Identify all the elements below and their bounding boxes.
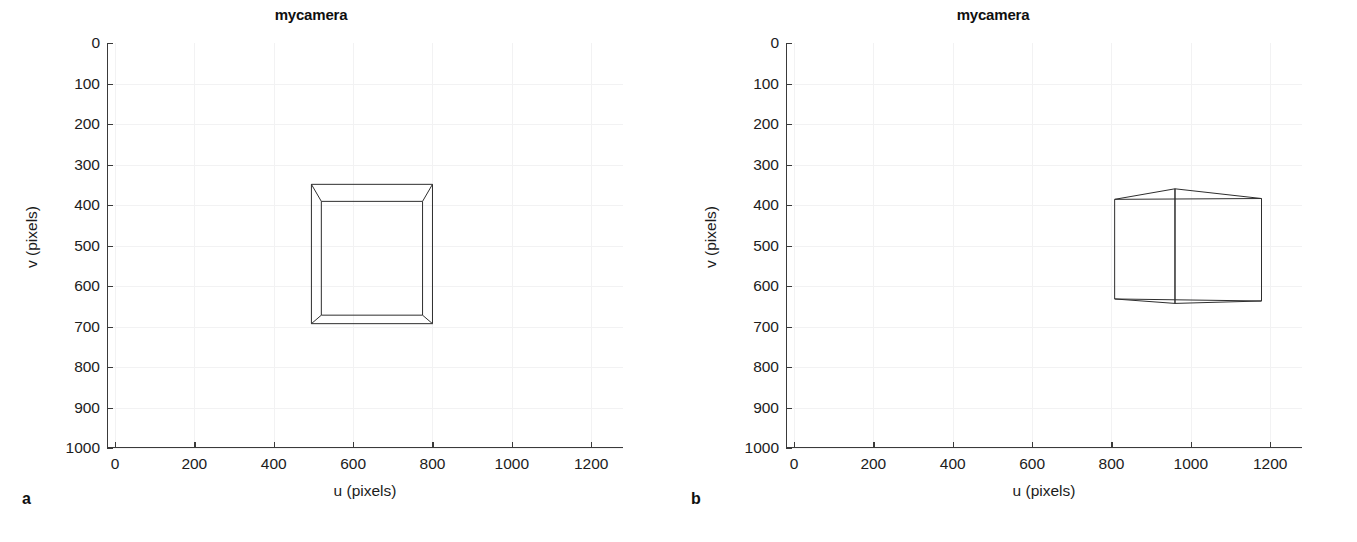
y-axis-title-b: v (pixels) [702,137,720,337]
y-axis-tick-label: 1000 [66,439,100,457]
x-axis-tick [591,442,592,448]
y-axis-tick [107,327,113,328]
y-axis-tick-label: 300 [753,156,779,174]
x-axis-tick [873,442,874,448]
axes-b [786,43,1302,448]
y-axis-tick-label: 700 [74,318,100,336]
y-axis-tick [786,246,792,247]
x-axis-tick-label: 200 [181,455,207,473]
y-axis-tick-label: 100 [74,75,100,93]
x-axis-tick-label: 1200 [1253,455,1287,473]
x-axis-tick [1032,442,1033,448]
x-axis-tick [512,442,513,448]
x-axis-tick [432,442,433,448]
y-axis-tick-label: 400 [753,196,779,214]
y-axis-tick-label: 200 [753,115,779,133]
x-axis-tick [953,442,954,448]
y-axis-tick [786,165,792,166]
y-axis-tick-label: 0 [770,34,779,52]
y-axis-tick [786,205,792,206]
x-axis-tick [274,442,275,448]
x-axis-tick-label: 1200 [574,455,608,473]
y-axis-tick-label: 400 [74,196,100,214]
gridline-horizontal [107,448,623,449]
y-axis-tick [107,408,113,409]
x-axis-tick-label: 200 [860,455,886,473]
plot-title-a: mycamera [0,6,650,23]
x-tick-labels-a: 020040060080010001200 [107,455,623,477]
x-axis-tick-label: 1000 [1174,455,1208,473]
panel-label-a: a [22,490,31,508]
x-axis-tick [1191,442,1192,448]
y-axis-tick [107,286,113,287]
y-axis-tick [786,124,792,125]
y-axis-tick [786,327,792,328]
y-axis-tick [786,84,792,85]
x-axis-tick-label: 400 [940,455,966,473]
y-axis-tick-label: 700 [753,318,779,336]
x-axis-tick-label: 400 [261,455,287,473]
x-axis-tick-label: 800 [1099,455,1125,473]
y-axis-tick [107,367,113,368]
y-axis-tick-label: 800 [753,358,779,376]
y-axis-tick [107,124,113,125]
y-axis-tick-label: 0 [91,34,100,52]
y-axis-tick [107,246,113,247]
y-axis-tick-label: 600 [74,277,100,295]
axes-a [107,43,623,448]
y-axis-tick [786,448,792,449]
x-tick-labels-b: 020040060080010001200 [786,455,1302,477]
x-axis-title-b: u (pixels) [786,482,1302,500]
y-axis-tick-label: 900 [74,399,100,417]
x-axis-tick-label: 0 [790,455,799,473]
x-axis-tick-label: 600 [1019,455,1045,473]
plot-title-b: mycamera [654,6,1332,23]
x-axis-tick-label: 600 [340,455,366,473]
y-axis-tick [786,408,792,409]
y-axis-tick-label: 500 [74,237,100,255]
y-axis-tick [107,448,113,449]
y-axis-tick-label: 600 [753,277,779,295]
panel-label-b: b [691,490,701,508]
x-axis-tick-label: 0 [111,455,120,473]
y-axis-tick-label: 200 [74,115,100,133]
y-axis-tick-label: 500 [753,237,779,255]
x-axis-tick [194,442,195,448]
x-axis-tick [353,442,354,448]
y-axis-tick-label: 300 [74,156,100,174]
x-axis-tick [1270,442,1271,448]
y-tick-labels-a: 01002003004005006007008009001000 [48,43,100,448]
x-axis-tick [794,442,795,448]
x-axis-tick [115,442,116,448]
axes-frame-b [786,43,1302,448]
y-axis-title-a: v (pixels) [23,137,41,337]
axes-frame-a [107,43,623,448]
y-axis-tick [786,286,792,287]
y-axis-tick [786,367,792,368]
x-axis-title-a: u (pixels) [107,482,623,500]
panel-b: mycamera 0100200300400500600700800900100… [679,0,1357,542]
x-axis-tick-label: 800 [420,455,446,473]
gridline-horizontal [786,448,1302,449]
y-axis-tick-label: 100 [753,75,779,93]
y-axis-tick-label: 900 [753,399,779,417]
y-axis-tick [107,165,113,166]
x-axis-tick [1111,442,1112,448]
y-axis-tick-label: 800 [74,358,100,376]
y-axis-tick-label: 1000 [745,439,779,457]
y-axis-tick [107,205,113,206]
y-axis-tick [107,43,113,44]
y-axis-tick [107,84,113,85]
x-axis-tick-label: 1000 [495,455,529,473]
panel-a: mycamera 0100200300400500600700800900100… [0,0,678,542]
y-tick-labels-b: 01002003004005006007008009001000 [727,43,779,448]
y-axis-tick [786,43,792,44]
